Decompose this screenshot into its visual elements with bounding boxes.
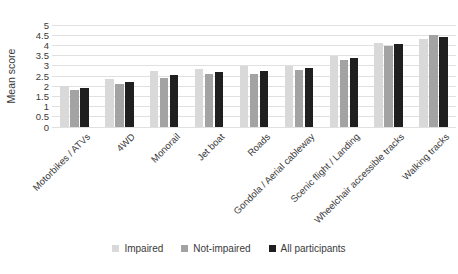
bar-all-participants [439,37,448,127]
legend-label: Not-impaired [193,243,250,254]
bar-all-participants [305,68,314,127]
bar-impaired [330,56,339,127]
legend-item: Impaired [112,243,163,254]
bar-not-impaired [295,70,304,127]
bar-not-impaired [70,90,79,127]
bar-not-impaired [205,74,214,127]
y-tick-label: 0.5 [8,111,49,122]
bar-not-impaired [429,35,438,127]
x-category-label: Walking tracks [400,131,451,182]
y-tick-label: 1 [8,101,49,112]
bar-all-participants [260,71,269,127]
legend-label: All participants [281,243,346,254]
y-tick-label: 1.5 [8,91,49,102]
x-category-label: Roads [245,131,272,158]
bar-impaired [374,43,383,127]
x-category-label: 4WD [114,131,137,154]
legend-item: Not-impaired [181,243,250,254]
bar-not-impaired [160,78,169,127]
x-category-label: Gondola / Aerial cableway [231,131,316,216]
y-tick-label: 4.5 [8,30,49,41]
bar-not-impaired [250,74,259,127]
legend-swatch-icon [181,245,188,252]
bar-not-impaired [115,84,124,127]
legend-swatch-icon [112,245,119,252]
bar-chart: Mean score 00.511.522.533.544.55 Motorbi… [0,0,458,274]
gridline [52,35,456,36]
bar-all-participants [350,58,359,127]
y-tick-label: 3.5 [8,50,49,61]
legend-swatch-icon [269,245,276,252]
bar-all-participants [80,88,89,127]
legend-label: Impaired [124,243,163,254]
x-category-label: Wheelchair accessible tracks [312,131,406,225]
y-tick-label: 2 [8,81,49,92]
bar-impaired [285,66,294,127]
y-tick-label: 2.5 [8,71,49,82]
bar-all-participants [394,44,403,127]
legend-item: All participants [269,243,346,254]
bar-impaired [60,86,69,127]
y-tick-label: 4 [8,40,49,51]
bar-impaired [240,66,249,127]
gridline [52,25,456,26]
bar-impaired [105,79,114,127]
x-category-label: Monorail [148,131,182,165]
bar-impaired [195,69,204,127]
y-tick-label: 5 [8,20,49,31]
bar-not-impaired [340,60,349,127]
bar-impaired [150,71,159,127]
bar-all-participants [125,82,134,127]
x-category-label: Motorbikes / ATVs [30,131,92,193]
x-category-label: Jet boat [195,131,227,163]
legend: ImpairedNot-impairedAll participants [0,243,458,254]
bar-not-impaired [384,46,393,127]
bar-all-participants [215,72,224,127]
y-tick-label: 3 [8,60,49,71]
bar-impaired [419,39,428,127]
bar-all-participants [170,75,179,127]
y-tick-label: 0 [8,122,49,133]
